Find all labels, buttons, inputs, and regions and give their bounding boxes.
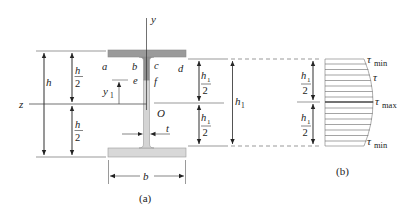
panel-a: y z O a b c d e f h h 2: [18, 13, 322, 205]
svg-text:min: min: [374, 140, 388, 150]
svg-text:2: 2: [303, 85, 308, 96]
svg-text:τ: τ: [367, 135, 372, 147]
svg-text:max: max: [382, 100, 397, 110]
panel-b: h 1 2 h 1 2: [297, 53, 397, 178]
svg-text:h: h: [75, 119, 80, 130]
y-axis-label: y: [150, 13, 156, 25]
svg-text:2: 2: [75, 78, 80, 89]
label-tau: τ: [373, 71, 378, 83]
svg-text:t: t: [166, 123, 170, 134]
shear-stress-distribution: [325, 59, 373, 146]
svg-text:1: 1: [307, 76, 311, 84]
svg-text:y: y: [102, 85, 108, 97]
caption-b: (b): [336, 165, 349, 178]
point-d: d: [178, 63, 184, 74]
shear-stress-i-beam-diagram: y z O a b c d e f h h 2: [0, 0, 413, 211]
svg-text:1: 1: [110, 91, 114, 100]
svg-text:2: 2: [203, 85, 208, 96]
dimension-h1-halves: h 1 2 h 1 2: [154, 59, 224, 146]
svg-text:h: h: [301, 112, 306, 123]
label-tau-max: τ max: [375, 95, 397, 110]
svg-text:1: 1: [241, 101, 245, 110]
point-e: e: [133, 75, 138, 86]
point-c: c: [154, 60, 159, 71]
dimension-b: b: [109, 160, 186, 184]
origin-label: O: [157, 107, 165, 119]
svg-text:h: h: [201, 112, 206, 123]
svg-text:2: 2: [75, 132, 80, 143]
svg-text:1: 1: [207, 118, 211, 126]
svg-text:h: h: [46, 76, 52, 88]
svg-text:h: h: [201, 70, 206, 81]
svg-text:2: 2: [303, 127, 308, 138]
point-a: a: [102, 61, 107, 72]
dimension-h-half-upper: h 2: [72, 53, 83, 102]
svg-text:min: min: [374, 58, 388, 68]
caption-a: (a): [139, 192, 152, 205]
svg-text:2: 2: [203, 127, 208, 138]
svg-text:h: h: [75, 65, 80, 76]
svg-text:τ: τ: [373, 71, 378, 83]
top-flange: [108, 50, 186, 57]
dimension-y1: y 1: [102, 80, 128, 104]
label-tau-min-top: τ min: [367, 53, 388, 68]
point-b: b: [132, 61, 137, 72]
dimension-h1: h 1: [233, 61, 246, 144]
svg-text:τ: τ: [375, 95, 380, 107]
dimension-h-half-lower: h 2: [72, 106, 83, 155]
svg-text:h: h: [301, 70, 306, 81]
z-axis-label: z: [18, 98, 24, 110]
dimension-h1-halves-b: h 1 2 h 1 2: [297, 61, 320, 144]
point-f: f: [154, 76, 159, 87]
bottom-flange: [108, 148, 186, 157]
i-beam-cross-section: [108, 50, 186, 157]
label-tau-min-bottom: τ min: [367, 135, 388, 150]
svg-text:1: 1: [207, 76, 211, 84]
svg-text:1: 1: [307, 118, 311, 126]
svg-text:b: b: [143, 170, 149, 182]
svg-text:τ: τ: [367, 53, 372, 65]
